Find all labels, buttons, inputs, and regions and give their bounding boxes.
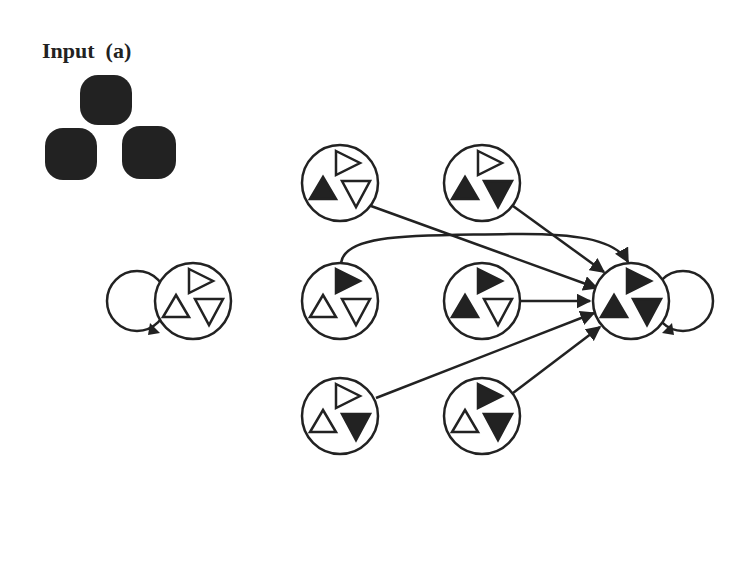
nodes xyxy=(155,145,669,454)
node-n-r2c0 xyxy=(302,378,378,454)
node-n-r0c0 xyxy=(302,145,378,221)
input-blob xyxy=(45,128,97,180)
input-blobs xyxy=(45,75,176,180)
network-diagram xyxy=(0,0,748,564)
node-n-r2c1 xyxy=(444,378,520,454)
node-target xyxy=(593,263,669,339)
node-n-r0c1 xyxy=(444,145,520,221)
edge-arrow xyxy=(513,327,600,393)
node-initial xyxy=(155,263,231,339)
node-n-r1c0 xyxy=(302,263,378,339)
input-blob xyxy=(122,126,176,179)
input-blob xyxy=(80,75,132,125)
node-n-r1c1 xyxy=(444,263,520,339)
